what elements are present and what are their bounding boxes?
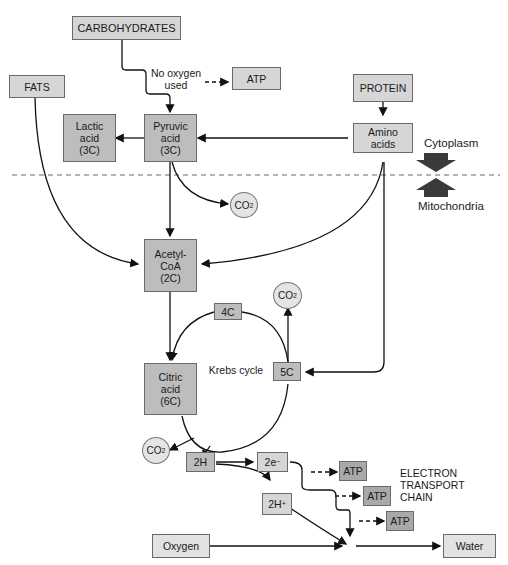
- water-box: Water: [443, 534, 496, 558]
- 5c-box: 5C: [273, 362, 301, 381]
- lactic-acid-box: Lactic acid (3C): [63, 114, 116, 162]
- atp-anaerobic-box: ATP: [232, 67, 281, 90]
- co2-circle-cycle: CO2: [142, 437, 170, 464]
- arrow-down-icon: [416, 153, 456, 172]
- pyruvic-acid-box: Pyruvic acid (3C): [144, 114, 197, 162]
- citric-acid-box: Citric acid (6C): [144, 363, 197, 415]
- krebs-cycle-label: Krebs cycle: [202, 364, 270, 376]
- co2-circle-5c: CO2: [273, 282, 302, 309]
- atp-box-1: ATP: [339, 461, 367, 481]
- cellular-respiration-diagram: CARBOHYDRATES FATS PROTEIN No oxygen use…: [0, 0, 508, 565]
- amino-acids-box: Amino acids: [353, 123, 413, 153]
- carbohydrates-box: CARBOHYDRATES: [72, 16, 181, 40]
- atp-box-3: ATP: [386, 511, 414, 531]
- no-oxygen-label: No oxygen used: [148, 67, 204, 91]
- 2e-box: 2e−: [257, 452, 288, 472]
- 4c-box: 4C: [214, 303, 242, 320]
- 2h-box: 2H: [186, 452, 215, 472]
- cytoplasm-label: Cytoplasm: [424, 137, 478, 149]
- acetyl-coa-box: Acetyl- CoA (2C): [144, 239, 197, 292]
- atp-box-2: ATP: [363, 486, 391, 506]
- fats-box: FATS: [9, 75, 65, 98]
- mitochondria-label: Mitochondria: [418, 200, 484, 212]
- arrow-up-icon: [416, 178, 456, 197]
- oxygen-box: Oxygen: [152, 534, 210, 558]
- etc-label: ELECTRON TRANSPORT CHAIN: [400, 467, 470, 503]
- co2-circle-pyruvate: CO2: [230, 192, 258, 218]
- 2h-plus-box: 2H+: [262, 493, 292, 515]
- protein-box: PROTEIN: [353, 74, 413, 102]
